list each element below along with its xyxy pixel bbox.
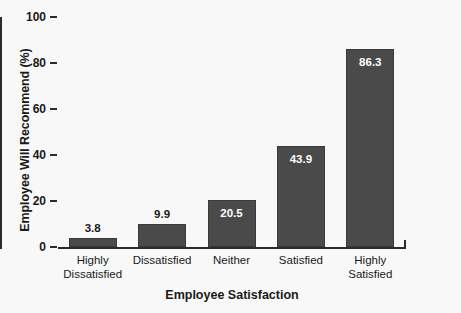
y-axis-tick-mark — [50, 16, 57, 18]
bar-group: 43.9 — [277, 17, 325, 247]
plot-area: 3.89.920.543.986.3 — [58, 17, 405, 247]
y-axis-tick-label: 100 — [26, 10, 46, 24]
x-axis-category-label-line: Satisfied — [266, 254, 335, 268]
y-axis-line — [0, 17, 2, 249]
y-axis-tick-mark — [50, 246, 57, 248]
bar-group: 3.8 — [69, 17, 117, 247]
y-axis-tick-label: 60 — [33, 102, 46, 116]
y-axis-tick-mark — [50, 154, 57, 156]
y-axis-tick: 100 — [0, 11, 58, 23]
x-axis-category-label: Satisfied — [266, 254, 335, 268]
bar-value-label: 9.9 — [138, 208, 186, 220]
bar-group: 86.3 — [346, 17, 394, 247]
y-axis-tick-label: 0 — [39, 240, 46, 254]
y-axis-tick-mark — [50, 108, 57, 110]
bar-chart: Employee Will Recommend (%) 020406080100… — [0, 0, 461, 313]
y-axis-tick-label: 40 — [33, 148, 46, 162]
y-axis-tick-mark — [50, 200, 57, 202]
y-axis-tick: 60 — [0, 103, 58, 115]
y-axis-tick-label: 20 — [33, 194, 46, 208]
y-axis-tick: 40 — [0, 149, 58, 161]
x-axis-category-label: HighlyDissatisfied — [58, 254, 127, 281]
x-axis-category-label: HighlySatisfied — [336, 254, 405, 281]
x-axis-category-label-line: Dissatisfied — [58, 268, 127, 282]
x-axis-category-label-line: Highly — [336, 254, 405, 268]
x-axis-category-label-line: Satisfied — [336, 268, 405, 282]
y-axis-tick-label: 80 — [33, 56, 46, 70]
x-axis-category-label: Neither — [197, 254, 266, 268]
bar-value-label: 20.5 — [208, 207, 256, 219]
bar-group: 9.9 — [138, 17, 186, 247]
bar-value-label: 43.9 — [277, 153, 325, 165]
y-axis-title: Employee Will Recommend (%) — [14, 15, 36, 265]
y-axis-tick-mark — [50, 62, 57, 64]
x-axis-category-label-line: Highly — [58, 254, 127, 268]
y-axis-tick: 0 — [0, 241, 58, 253]
x-axis-line — [58, 247, 406, 249]
x-axis-category-label: Dissatisfied — [127, 254, 196, 268]
bar-group: 20.5 — [208, 17, 256, 247]
bar-value-label: 3.8 — [69, 222, 117, 234]
x-axis-title: Employee Satisfaction — [58, 288, 406, 302]
x-axis-category-label-line: Neither — [197, 254, 266, 268]
y-axis-tick: 80 — [0, 57, 58, 69]
y-axis-tick: 20 — [0, 195, 58, 207]
bar-value-label: 86.3 — [346, 56, 394, 68]
bar[interactable] — [138, 224, 186, 247]
x-axis-category-label-line: Dissatisfied — [127, 254, 196, 268]
bar[interactable] — [69, 238, 117, 247]
bar[interactable] — [346, 49, 394, 247]
